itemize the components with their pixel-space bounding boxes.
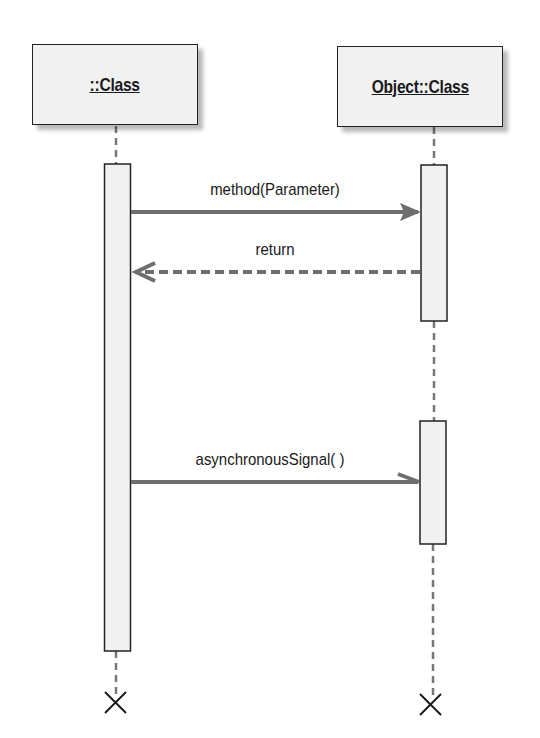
message-label-async: asynchronousSignal( ) <box>173 450 367 470</box>
return-arrow <box>136 263 420 281</box>
activation-right-2 <box>420 421 446 544</box>
message-label-method: method(Parameter) <box>183 180 368 200</box>
async-arrow <box>131 474 419 482</box>
lifeline-box-class: ::Class <box>32 44 198 125</box>
destroy-mark-right <box>420 694 441 715</box>
message-label-return: return <box>227 240 324 260</box>
sequence-diagram: ::Class Object::Class method(Parameter) … <box>0 0 540 738</box>
lifeline-title: ::Class <box>90 74 140 96</box>
activation-left <box>105 164 131 651</box>
destroy-mark-left <box>105 692 126 713</box>
lifeline-title: Object::Class <box>371 76 468 98</box>
method-arrow <box>131 203 421 221</box>
lifeline-box-object-class: Object::Class <box>337 46 503 127</box>
activation-right-1 <box>421 165 447 321</box>
